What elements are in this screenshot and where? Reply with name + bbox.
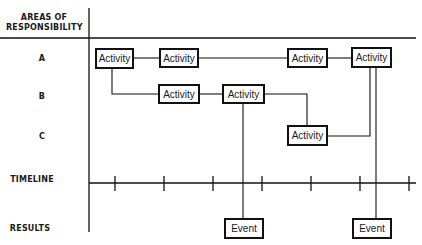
activity-box-a4: Activity (351, 47, 392, 68)
header-areas-label: AREAS OF RESPONSIBILITY (6, 13, 82, 33)
event-box-2: Event (352, 218, 392, 239)
diagram-lines (0, 0, 422, 245)
event-box-1: Event (224, 218, 264, 239)
activity-box-a1: Activity (95, 48, 134, 69)
row-label-a: A (32, 54, 52, 63)
activity-box-c1: Activity (287, 125, 328, 146)
activity-box-a3: Activity (287, 48, 328, 68)
activity-box-b2: Activity (222, 84, 265, 104)
activity-box-b1: Activity (158, 84, 200, 104)
activity-box-a2: Activity (159, 48, 199, 68)
row-label-timeline: TIMELINE (2, 175, 62, 184)
row-label-c: C (32, 132, 52, 141)
row-label-results: RESULTS (2, 224, 58, 233)
row-label-b: B (32, 92, 52, 101)
connectors (112, 58, 376, 218)
